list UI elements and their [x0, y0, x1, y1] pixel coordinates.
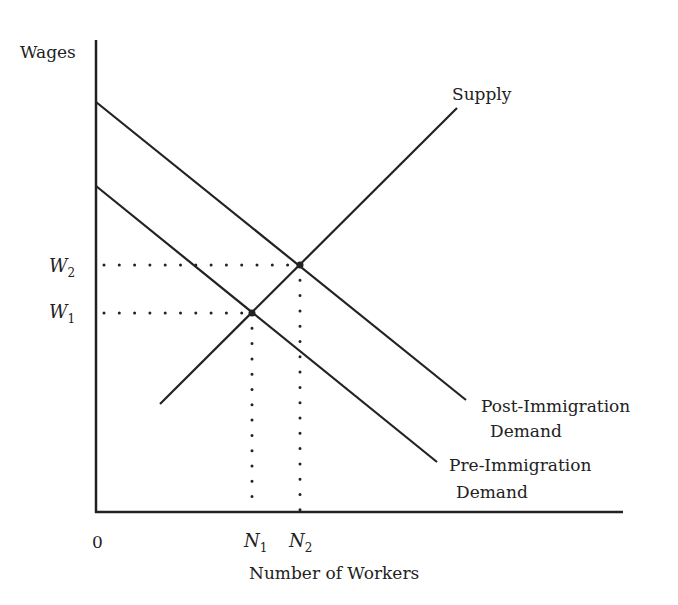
n2-label: N2 — [288, 530, 312, 555]
equilibrium-point-2 — [297, 262, 304, 269]
n1-label: N1 — [243, 530, 267, 555]
pre-demand-label-line1: Pre-Immigration — [449, 455, 591, 475]
supply-demand-diagram: Wages Number of Workers 0 Supply Post-Im… — [0, 0, 678, 605]
post-demand-label-line2: Demand — [490, 421, 562, 441]
pre-immigration-demand-curve — [96, 186, 437, 462]
pre-demand-label-line2: Demand — [456, 482, 528, 502]
equilibrium-point-1 — [249, 310, 256, 317]
y-axis-label: Wages — [20, 42, 76, 62]
guide-lines — [104, 265, 300, 512]
w2-label: W2 — [49, 255, 75, 280]
post-immigration-demand-curve — [96, 102, 466, 400]
supply-curve — [160, 108, 457, 404]
post-demand-label-line1: Post-Immigration — [481, 396, 630, 416]
supply-label: Supply — [452, 84, 512, 104]
x-axis-label: Number of Workers — [249, 563, 419, 583]
origin-label: 0 — [92, 532, 103, 552]
w1-label: W1 — [49, 301, 75, 326]
